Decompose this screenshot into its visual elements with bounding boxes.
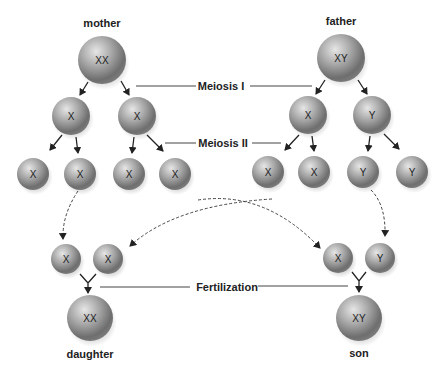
svg-text:XX: XX	[95, 55, 109, 66]
svg-text:X: X	[77, 169, 84, 180]
meiosis1-label: Meiosis I	[198, 80, 244, 92]
mother-l3-cell-3: X	[113, 158, 149, 195]
mother-l2-cell-1: X	[52, 97, 94, 140]
svg-text:X: X	[172, 169, 179, 180]
son-label: son	[349, 347, 369, 359]
svg-text:Y: Y	[369, 110, 376, 121]
svg-text:X: X	[63, 254, 70, 265]
father-l2-cell-1: X	[289, 96, 331, 139]
gamete-paths	[63, 190, 385, 248]
svg-text:X: X	[134, 111, 141, 122]
mother-l3-cell-4: X	[159, 158, 195, 195]
svg-text:XY: XY	[352, 313, 366, 324]
svg-text:X: X	[335, 253, 342, 264]
svg-text:Y: Y	[377, 253, 384, 264]
svg-text:XY: XY	[334, 53, 348, 64]
svg-text:X: X	[311, 167, 318, 178]
daughter-gamete-2: X	[93, 244, 127, 279]
mother-cell: XX	[78, 36, 130, 90]
daughter-cell: XX	[67, 295, 117, 347]
mother-label: mother	[83, 17, 121, 29]
father-l3-cell-4: Y	[396, 156, 432, 193]
mother-l2-cell-2: X	[118, 97, 160, 140]
svg-text:X: X	[105, 254, 112, 265]
svg-text:Y: Y	[409, 167, 416, 178]
svg-text:X: X	[30, 169, 37, 180]
father-l3-cell-2: X	[298, 156, 334, 193]
son-gamete-1: X	[323, 243, 357, 278]
svg-text:XX: XX	[83, 313, 97, 324]
son-gamete-2: Y	[365, 243, 399, 278]
meiosis-fertilization-diagram: mother father daughter son Meiosis I Mei…	[0, 0, 442, 377]
meiosis1-marker: Meiosis I	[136, 80, 312, 92]
meiosis2-marker: Meiosis II	[165, 137, 281, 149]
daughter-label: daughter	[66, 348, 114, 360]
father-label: father	[326, 15, 357, 27]
father-l2-cell-2: Y	[353, 96, 395, 139]
svg-text:X: X	[126, 169, 133, 180]
svg-text:X: X	[68, 111, 75, 122]
fertilization-marker: Fertilization	[100, 281, 348, 293]
father-l3-cell-1: X	[252, 156, 288, 193]
daughter-gamete-1: X	[51, 244, 85, 279]
meiosis2-label: Meiosis II	[198, 137, 248, 149]
mother-l3-cell-2: X	[64, 158, 100, 195]
diagram-canvas: mother father daughter son Meiosis I Mei…	[0, 0, 442, 377]
father-cell: XY	[317, 34, 369, 88]
father-l3-cell-3: Y	[347, 156, 383, 193]
mother-l3-cell-1: X	[17, 158, 53, 195]
svg-text:X: X	[305, 110, 312, 121]
svg-text:Y: Y	[360, 167, 367, 178]
fertilization-label: Fertilization	[196, 281, 258, 293]
svg-text:X: X	[265, 167, 272, 178]
son-cell: XY	[336, 295, 386, 347]
